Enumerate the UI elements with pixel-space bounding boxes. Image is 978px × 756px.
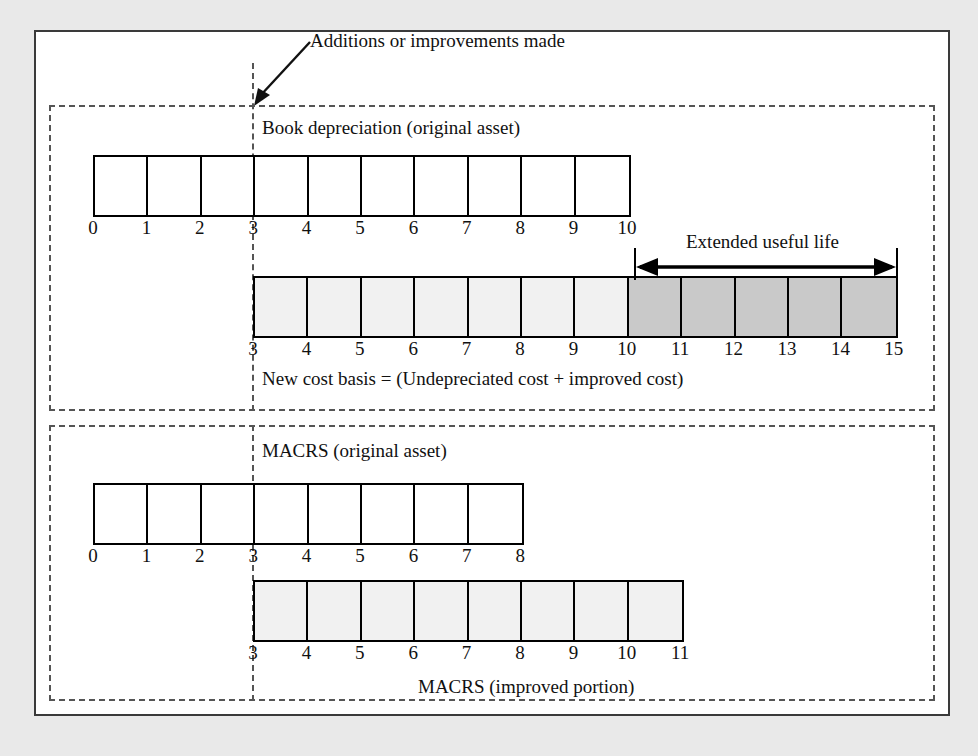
tick-label: 5 <box>355 641 365 665</box>
tick-label: 5 <box>355 337 365 361</box>
timeline-cell <box>202 485 255 543</box>
timeline-cell <box>362 582 415 640</box>
tick-label: 7 <box>462 544 472 568</box>
tick-label: 7 <box>462 216 472 240</box>
tick-label: 0 <box>88 544 98 568</box>
book-depreciation-section <box>49 105 935 411</box>
tick-label: 10 <box>618 216 637 240</box>
tick-label: 4 <box>302 641 312 665</box>
bar-new-cost-basis <box>253 276 898 338</box>
tick-label: 3 <box>248 544 258 568</box>
tick-label: 6 <box>408 641 418 665</box>
tick-label: 3 <box>248 216 258 240</box>
tick-label: 7 <box>462 337 472 361</box>
tick-label: 1 <box>142 544 152 568</box>
tick-label: 9 <box>569 216 579 240</box>
tick-label: 6 <box>409 216 419 240</box>
depreciation-timeline-figure: Additions or improvements made Book depr… <box>0 0 978 756</box>
timeline-cell <box>362 157 415 215</box>
timeline-cell <box>469 157 522 215</box>
tick-label: 7 <box>462 641 472 665</box>
tick-label: 8 <box>515 216 525 240</box>
tick-label: 11 <box>671 641 689 665</box>
ticks-new-cost-basis: 3456789101112131415 <box>253 337 894 361</box>
tick-label: 10 <box>617 641 636 665</box>
timeline-cell <box>308 278 361 336</box>
tick-label: 8 <box>515 641 525 665</box>
timeline-cell <box>255 485 308 543</box>
tick-label: 11 <box>671 337 689 361</box>
timeline-cell <box>415 485 468 543</box>
tick-label: 2 <box>195 544 205 568</box>
tick-label: 13 <box>778 337 797 361</box>
additions-improvements-callout-label: Additions or improvements made <box>310 30 565 52</box>
tick-label: 5 <box>355 544 365 568</box>
timeline-cell <box>469 582 522 640</box>
timeline-cell <box>629 582 682 640</box>
ticks-macrs-improved-portion: 34567891011 <box>253 641 680 665</box>
timeline-cell <box>469 485 522 543</box>
tick-label: 8 <box>515 337 525 361</box>
timeline-cell <box>629 278 682 336</box>
macrs-original-asset-caption: MACRS (original asset) <box>262 440 447 462</box>
tick-label: 4 <box>302 337 312 361</box>
timeline-cell <box>522 582 575 640</box>
timeline-cell <box>575 582 628 640</box>
tick-label: 9 <box>569 337 579 361</box>
tick-label: 9 <box>569 641 579 665</box>
timeline-cell <box>255 582 308 640</box>
tick-label: 6 <box>408 337 418 361</box>
bar-macrs-original-asset <box>93 483 524 545</box>
ticks-macrs-original-asset: 012345678 <box>93 544 520 568</box>
timeline-cell <box>469 278 522 336</box>
timeline-cell <box>309 157 362 215</box>
bar-original-asset-book <box>93 155 631 217</box>
tick-label: 4 <box>302 544 312 568</box>
timeline-cell <box>255 278 308 336</box>
timeline-cell <box>309 485 362 543</box>
timeline-cell <box>789 278 842 336</box>
tick-label: 10 <box>617 337 636 361</box>
tick-label: 1 <box>142 216 152 240</box>
timeline-cell <box>148 157 201 215</box>
tick-label: 3 <box>248 337 258 361</box>
timeline-cell <box>148 485 201 543</box>
timeline-cell <box>255 157 308 215</box>
timeline-cell <box>202 157 255 215</box>
timeline-cell <box>522 157 575 215</box>
timeline-cell <box>576 157 629 215</box>
tick-label: 2 <box>195 216 205 240</box>
tick-label: 6 <box>409 544 419 568</box>
bar-macrs-improved-portion <box>253 580 684 642</box>
timeline-cell <box>682 278 735 336</box>
timeline-cell <box>575 278 628 336</box>
timeline-cell <box>522 278 575 336</box>
timeline-cell <box>415 278 468 336</box>
timeline-cell <box>415 582 468 640</box>
tick-label: 0 <box>88 216 98 240</box>
ticks-original-asset-book: 012345678910 <box>93 216 627 240</box>
tick-label: 5 <box>355 216 365 240</box>
tick-label: 12 <box>724 337 743 361</box>
new-cost-basis-caption: New cost basis = (Undepreciated cost + i… <box>262 368 683 390</box>
timeline-cell <box>362 485 415 543</box>
timeline-cell <box>362 278 415 336</box>
tick-label: 15 <box>884 337 903 361</box>
timeline-cell <box>308 582 361 640</box>
macrs-improved-portion-caption: MACRS (improved portion) <box>418 676 634 698</box>
tick-label: 4 <box>302 216 312 240</box>
timeline-cell <box>415 157 468 215</box>
timeline-cell <box>736 278 789 336</box>
tick-label: 14 <box>831 337 850 361</box>
tick-label: 8 <box>515 544 525 568</box>
tick-label: 3 <box>248 641 258 665</box>
extended-useful-life-label: Extended useful life <box>686 231 839 253</box>
timeline-cell <box>95 485 148 543</box>
book-depreciation-caption: Book depreciation (original asset) <box>262 117 520 139</box>
timeline-cell <box>842 278 895 336</box>
timeline-cell <box>95 157 148 215</box>
